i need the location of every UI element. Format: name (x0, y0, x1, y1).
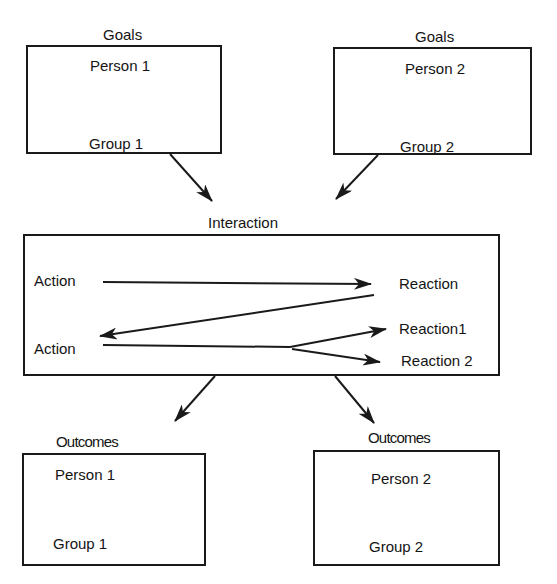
outcomes-heading-right: Outcomes (368, 430, 430, 445)
arrow-goals-1-to-interaction (170, 154, 212, 201)
arrow-goals-2-to-interaction (336, 155, 378, 199)
arrow-interaction-to-outcomes-1 (175, 376, 215, 421)
outcomes-person-2: Person 2 (371, 471, 431, 486)
interaction-action-2: Action (34, 341, 76, 356)
goals-person-2: Person 2 (405, 61, 465, 76)
interaction-heading: Interaction (208, 215, 278, 230)
goals-group-1: Group 1 (89, 136, 143, 151)
interaction-reaction-2: Reaction 2 (401, 353, 473, 368)
outcomes-person-1: Person 1 (55, 467, 115, 482)
arrow-interaction-to-outcomes-2 (335, 376, 374, 423)
outcomes-group-2: Group 2 (369, 539, 423, 554)
outcomes-group-1: Group 1 (53, 536, 107, 551)
interaction-reaction: Reaction (399, 276, 458, 291)
goals-heading-right: Goals (415, 29, 454, 44)
interaction-reaction-1: Reaction1 (399, 321, 467, 336)
outcomes-heading-left: Outcomes (56, 434, 118, 449)
goals-person-1: Person 1 (90, 58, 150, 73)
interaction-action-1: Action (34, 273, 76, 288)
goals-group-2: Group 2 (400, 139, 454, 154)
goals-heading-left: Goals (103, 27, 142, 42)
